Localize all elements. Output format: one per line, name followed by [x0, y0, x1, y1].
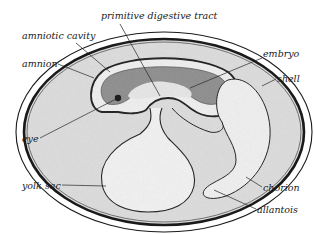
label-amniotic-cavity: amniotic cavity [22, 31, 95, 41]
label-chorion: chorion [263, 183, 300, 193]
label-eye: eye [22, 134, 39, 144]
label-yolk-sac: yolk sac [22, 181, 61, 191]
label-primitive-digestive-tract: primitive digestive tract [101, 11, 217, 21]
label-amnion: amnion [22, 59, 58, 69]
label-embryo: embryo [263, 49, 299, 59]
amniotic-egg-diagram: primitive digestive tract amniotic cavit… [0, 0, 314, 234]
label-allantois: allantois [257, 205, 298, 215]
label-shell: shell [277, 74, 300, 84]
